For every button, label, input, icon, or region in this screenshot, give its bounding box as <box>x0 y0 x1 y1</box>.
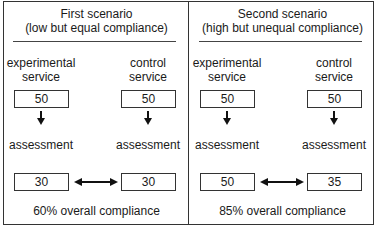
experimental-service-label: experimental service <box>0 56 86 84</box>
scenario-title-text: Second scenario <box>190 7 375 21</box>
control-end-box: 35 <box>307 173 362 191</box>
experimental-assessment-label: assessment <box>0 138 86 152</box>
control-start-box: 50 <box>307 90 362 108</box>
scenario-subtitle-text: (high but unequal compliance) <box>190 21 375 35</box>
label-line: experimental <box>0 56 86 70</box>
experimental-end-box: 30 <box>14 173 69 191</box>
experimental-start-box: 50 <box>200 90 255 108</box>
control-start-box: 50 <box>121 90 176 108</box>
label-line: service <box>103 70 193 84</box>
label-line: service <box>182 70 272 84</box>
scenario-panel-second: Second scenario (high but unequal compli… <box>190 1 375 225</box>
label-line: control <box>289 56 379 70</box>
control-end-box: 30 <box>121 173 176 191</box>
control-service-label: control service <box>103 56 193 84</box>
title-rule <box>199 41 362 42</box>
scenario-subtitle-text: (low but equal compliance) <box>4 21 189 35</box>
control-assessment-label: assessment <box>103 138 193 152</box>
experimental-assessment-label: assessment <box>182 138 272 152</box>
control-assessment-label: assessment <box>289 138 379 152</box>
scenario-title: First scenario (low but equal compliance… <box>4 7 189 35</box>
scenario-panel-first: First scenario (low but equal compliance… <box>4 1 189 225</box>
label-line: service <box>289 70 379 84</box>
experimental-service-label: experimental service <box>182 56 272 84</box>
comparison-arrow-shaft <box>81 181 111 183</box>
down-arrow-icon <box>330 118 338 125</box>
right-arrowhead-icon <box>110 178 118 186</box>
label-line: service <box>0 70 86 84</box>
control-service-label: control service <box>289 56 379 84</box>
title-rule <box>13 41 176 42</box>
overall-compliance-text: 60% overall compliance <box>4 204 189 218</box>
down-arrow-icon <box>37 118 45 125</box>
comparison-arrow-shaft <box>267 181 297 183</box>
down-arrow-icon <box>144 118 152 125</box>
down-arrow-icon <box>223 118 231 125</box>
scenario-title: Second scenario (high but unequal compli… <box>190 7 375 35</box>
right-arrowhead-icon <box>296 178 304 186</box>
label-line: experimental <box>182 56 272 70</box>
experimental-end-box: 50 <box>200 173 255 191</box>
overall-compliance-text: 85% overall compliance <box>190 204 375 218</box>
scenario-title-text: First scenario <box>4 7 189 21</box>
experimental-start-box: 50 <box>14 90 69 108</box>
label-line: control <box>103 56 193 70</box>
